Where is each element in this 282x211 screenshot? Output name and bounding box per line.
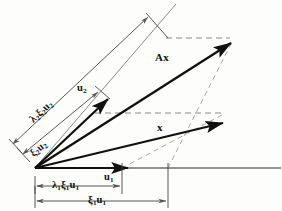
label-Ax: Ax (155, 52, 169, 63)
label-x: x (157, 122, 163, 133)
label-xi1-u1: ξ1u1 (88, 195, 106, 207)
construction-line-u2-extended (35, 4, 176, 168)
vector-Ax (35, 43, 231, 168)
x-parallelogram-dashed-line (122, 114, 224, 168)
label-u1: u1 (104, 172, 114, 184)
label-lambda1-xi1-u1: λ1ξ1u1 (52, 180, 79, 192)
vector-x (35, 123, 223, 168)
label-u2: u2 (77, 83, 87, 95)
eigenvector-decomposition-figure: λ2ξ2u2 ξ2u2 u2 u1 Ax x λ1ξ1u1 ξ1u1 (0, 0, 282, 211)
